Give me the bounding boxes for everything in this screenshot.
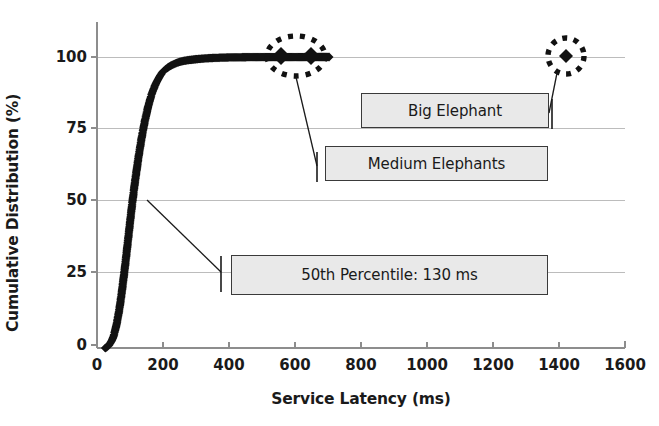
medium-elephants-leader-line [296,77,317,166]
percentile-leader-line [147,200,221,272]
callout-big-elephant[interactable]: Big Elephant [361,93,549,128]
chart-canvas [0,0,659,426]
callout-50th-percentile[interactable]: 50th Percentile: 130 ms [231,255,548,295]
percentile-leader [147,200,221,292]
cdf-data-markers [101,53,334,353]
big-elephant-data-point [559,49,573,63]
callout-medium-elephants[interactable]: Medium Elephants [325,146,548,181]
cdf-curve [101,53,334,353]
axis-spines [91,22,625,348]
big-elephant-leader-line [549,73,557,113]
big-elephant-highlight [548,38,584,129]
